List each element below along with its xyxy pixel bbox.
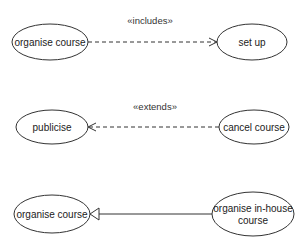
use-case-label: organise course [16, 209, 88, 220]
use-case-label: cancel course [223, 122, 285, 133]
extend-relationship: publicise cancel course «extends» [16, 101, 289, 144]
includes-stereotype-label: «includes» [127, 15, 172, 26]
use-case-diagram: organise course set up «includes» public… [0, 0, 307, 247]
use-case-label: publicise [33, 122, 72, 133]
use-case-label: set up [238, 37, 266, 48]
generalization-relationship: organise course organise in-house course [14, 192, 294, 236]
use-case-organise-in-house-course[interactable] [212, 192, 294, 236]
use-case-label-line1: organise in-house [213, 203, 293, 214]
extends-stereotype-label: «extends» [133, 101, 177, 112]
hollow-triangle-arrowhead-icon [90, 208, 99, 220]
use-case-label: organise course [14, 37, 86, 48]
include-relationship: organise course set up «includes» [12, 15, 287, 60]
use-case-label-line2: course [238, 215, 268, 226]
